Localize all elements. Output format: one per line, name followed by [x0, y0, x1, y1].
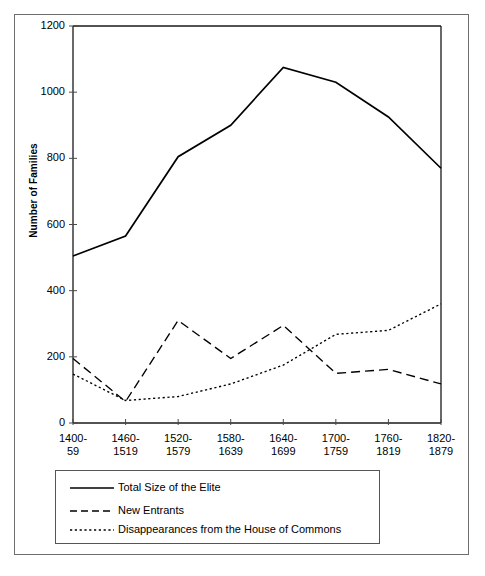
x-tick-line2: 59	[44, 445, 102, 458]
legend-item-disappearances: Disappearances from the House of Commons	[56, 523, 379, 551]
legend-swatch-dotted	[68, 523, 116, 537]
legend-item-total-size-of-the-elite: Total Size of the Elite	[56, 481, 379, 505]
x-tick-line1: 1400-	[44, 432, 102, 445]
chart-legend: Total Size of the Elite New Entrants Dis…	[55, 470, 380, 544]
x-tick-line2: 1579	[149, 445, 207, 458]
x-tick-label-7: 1820- 1879	[412, 432, 470, 458]
x-tick-line1: 1580-	[202, 432, 260, 445]
legend-label: New Entrants	[118, 504, 370, 517]
legend-label: Total Size of the Elite	[118, 481, 370, 494]
x-tick-line1: 1700-	[307, 432, 365, 445]
legend-swatch-solid	[68, 481, 116, 495]
chart-figure: Number of Families 0 200 400 600 800 100…	[14, 14, 469, 555]
chart-canvas	[15, 15, 470, 425]
x-tick-label-2: 1520- 1579	[149, 432, 207, 458]
legend-swatch-dashed	[68, 504, 116, 518]
x-tick-line1: 1520-	[149, 432, 207, 445]
x-tick-label-5: 1700- 1759	[307, 432, 365, 458]
x-tick-line2: 1519	[97, 445, 155, 458]
x-tick-label-0: 1400- 59	[44, 432, 102, 458]
series-line-dashed	[73, 320, 441, 401]
x-tick-line2: 1759	[307, 445, 365, 458]
x-tick-label-3: 1580- 1639	[202, 432, 260, 458]
x-tick-line2: 1879	[412, 445, 470, 458]
x-tick-line1: 1760-	[359, 432, 417, 445]
x-tick-line1: 1820-	[412, 432, 470, 445]
x-tick-label-4: 1640- 1699	[254, 432, 312, 458]
series-line-dotted	[73, 304, 441, 401]
x-tick-label-1: 1460- 1519	[97, 432, 155, 458]
x-tick-label-6: 1760- 1819	[359, 432, 417, 458]
x-tick-line2: 1639	[202, 445, 260, 458]
plot-area: Number of Families 0 200 400 600 800 100…	[15, 15, 470, 425]
legend-label: Disappearances from the House of Commons	[118, 523, 370, 536]
series-line-solid	[73, 67, 441, 256]
x-tick-line2: 1819	[359, 445, 417, 458]
x-tick-line1: 1460-	[97, 432, 155, 445]
x-tick-line1: 1640-	[254, 432, 312, 445]
x-tick-line2: 1699	[254, 445, 312, 458]
